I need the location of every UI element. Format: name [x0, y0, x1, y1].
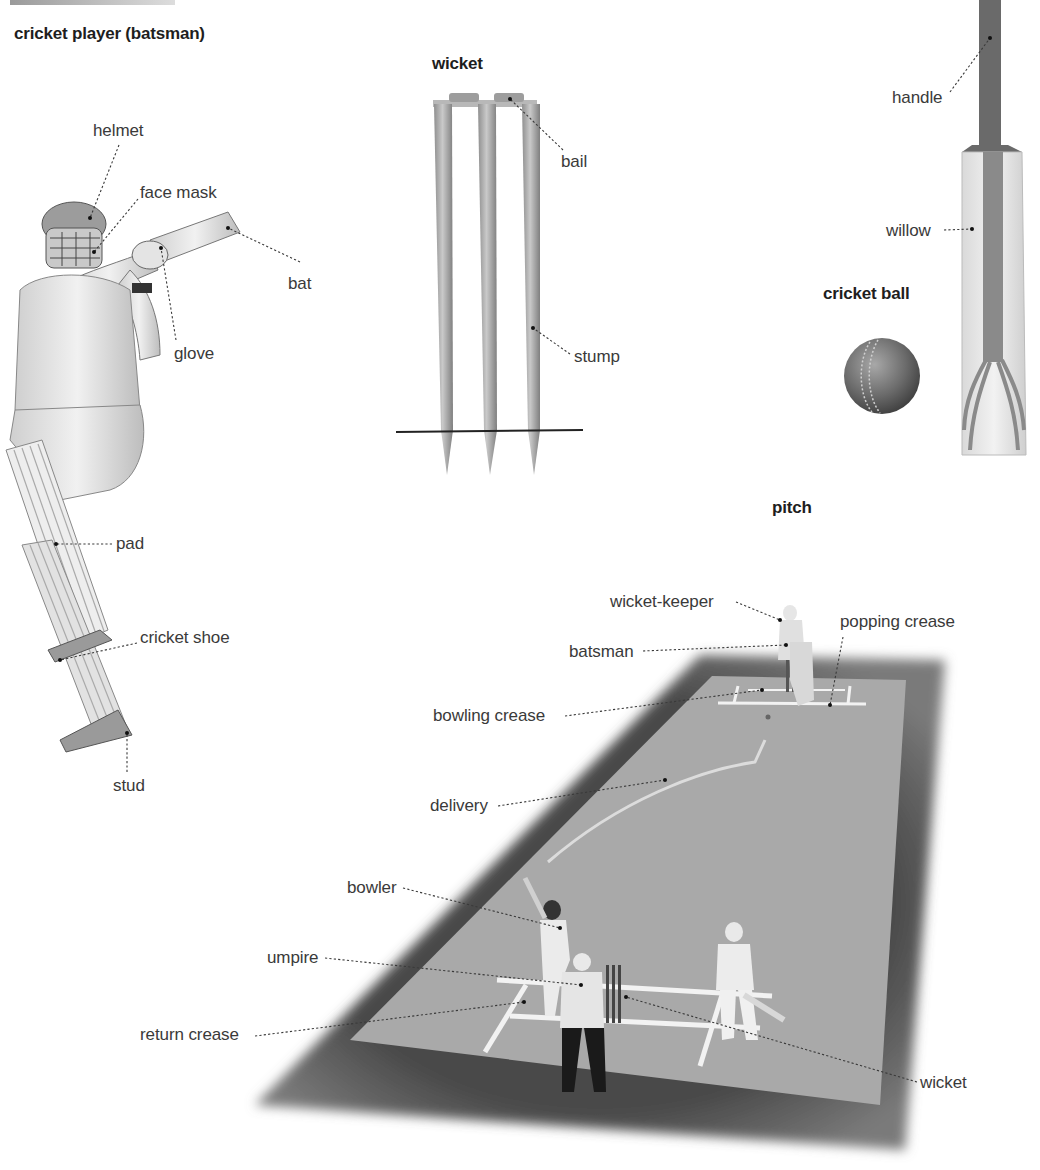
heading-pitch: pitch — [772, 498, 812, 518]
illustration-canvas — [0, 0, 1040, 1170]
wicket-illustration — [396, 93, 583, 475]
label-popping-crease: popping crease — [840, 612, 955, 632]
label-face-mask: face mask — [140, 183, 217, 203]
label-wicket-pitch: wicket — [920, 1073, 967, 1093]
label-return-crease: return crease — [140, 1025, 239, 1045]
label-stud: stud — [113, 776, 145, 796]
label-pad: pad — [116, 534, 144, 554]
label-helmet: helmet — [93, 121, 143, 141]
label-bowling-crease: bowling crease — [433, 706, 545, 726]
label-stump: stump — [574, 347, 620, 367]
cricket-diagram-page: cricket player (batsman) wicket cricket … — [0, 0, 1040, 1170]
label-cricket-shoe: cricket shoe — [140, 628, 230, 648]
heading-batsman: cricket player (batsman) — [14, 24, 205, 44]
heading-wicket: wicket — [432, 54, 483, 74]
label-glove: glove — [174, 344, 214, 364]
label-handle: handle — [892, 88, 942, 108]
label-bail: bail — [561, 152, 587, 172]
label-batsman: batsman — [569, 642, 634, 662]
label-willow: willow — [886, 221, 931, 241]
heading-cricket-ball: cricket ball — [823, 284, 909, 304]
batsman-figure — [6, 202, 240, 752]
label-bowler: bowler — [347, 878, 396, 898]
label-wicket-keeper: wicket-keeper — [610, 592, 714, 612]
label-delivery: delivery — [430, 796, 488, 816]
label-umpire: umpire — [267, 948, 318, 968]
label-bat: bat — [288, 274, 311, 294]
cricket-ball-illustration — [844, 338, 920, 414]
